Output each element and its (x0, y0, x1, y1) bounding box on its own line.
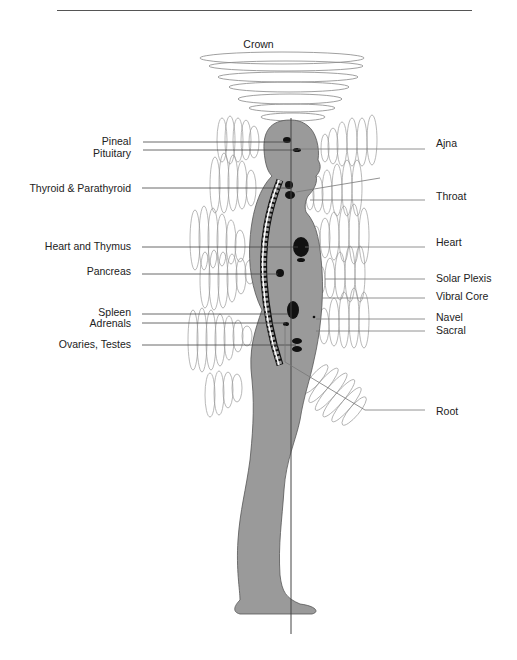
crown-spiral-icon (200, 52, 364, 121)
label-throat: Throat (436, 190, 466, 202)
label-ovaries-testes: Ovaries, Testes (59, 338, 131, 350)
label-pancreas: Pancreas (87, 265, 131, 277)
label-adrenals: Adrenals (90, 317, 131, 329)
label-heart-thymus: Heart and Thymus (45, 240, 131, 252)
label-pineal: Pineal (102, 135, 131, 147)
label-navel: Navel (436, 311, 463, 323)
label-sacral: Sacral (436, 324, 466, 336)
label-heart: Heart (436, 236, 462, 248)
label-solar-plexis: Solar Plexis (436, 272, 491, 284)
label-thyroid: Thyroid & Parathyroid (29, 182, 131, 194)
label-vibral-core: Vibral Core (436, 290, 488, 302)
label-ajna: Ajna (436, 137, 457, 149)
body-silhouette (235, 120, 323, 614)
label-root: Root (436, 405, 458, 417)
label-pituitary: Pituitary (93, 147, 131, 159)
